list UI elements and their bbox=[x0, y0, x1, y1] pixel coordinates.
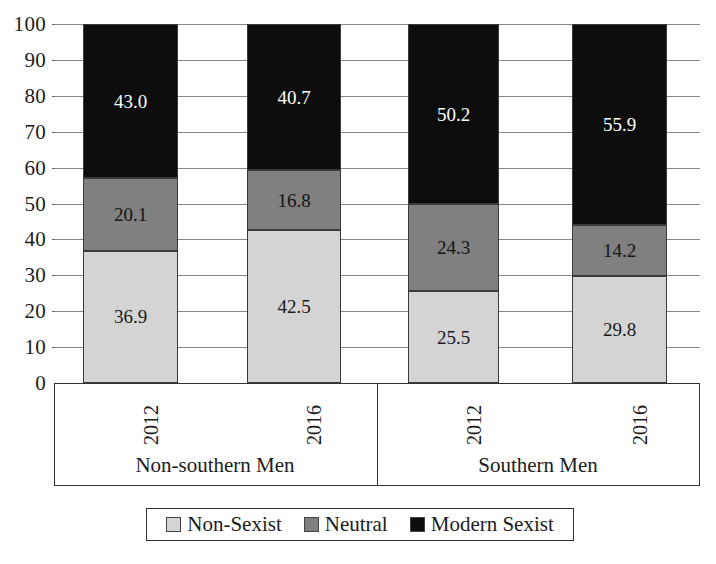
x-axis-year-label: 2016 bbox=[630, 405, 650, 445]
stacked-bar-chart: 1009080706050403020100 36.920.143.042.51… bbox=[0, 0, 716, 564]
bar-segment-value-label: 25.5 bbox=[437, 328, 470, 347]
bar-segment-value-label: 24.3 bbox=[437, 238, 470, 257]
stacked-bar: 36.920.143.0 bbox=[83, 24, 178, 383]
bar-segment: 36.9 bbox=[83, 251, 178, 383]
bar-segment: 24.3 bbox=[408, 204, 499, 291]
chart-legend: Non-SexistNeutralModern Sexist bbox=[146, 508, 574, 541]
bar-segment-value-label: 50.2 bbox=[437, 105, 470, 124]
x-axis-group-label: Southern Men bbox=[378, 455, 698, 476]
y-axis-tick-label: 20 bbox=[0, 301, 46, 322]
bar-segment: 40.7 bbox=[247, 24, 341, 170]
y-axis-tick-label: 60 bbox=[0, 158, 46, 179]
bar-segment-value-label: 14.2 bbox=[603, 241, 636, 260]
legend-label: Modern Sexist bbox=[431, 514, 554, 535]
stacked-bar: 42.516.840.7 bbox=[247, 24, 341, 383]
y-axis-tick-label: 40 bbox=[0, 229, 46, 250]
bar-segment: 25.5 bbox=[408, 291, 499, 383]
y-axis-tick-label: 10 bbox=[0, 337, 46, 358]
y-axis-tick-label: 70 bbox=[0, 122, 46, 143]
legend-label: Non-Sexist bbox=[187, 514, 282, 535]
bar-segment-value-label: 55.9 bbox=[603, 115, 636, 134]
y-axis-tick-label: 80 bbox=[0, 86, 46, 107]
legend-swatch-icon bbox=[166, 517, 181, 532]
y-axis-tick-label: 50 bbox=[0, 194, 46, 215]
x-axis-year-label: 2016 bbox=[304, 405, 324, 445]
bar-segment-value-label: 43.0 bbox=[114, 92, 147, 111]
legend-label: Neutral bbox=[325, 514, 388, 535]
bar-segment-value-label: 29.8 bbox=[603, 320, 636, 339]
bar-segment: 20.1 bbox=[83, 178, 178, 250]
legend-swatch-icon bbox=[304, 517, 319, 532]
bar-segment-value-label: 36.9 bbox=[114, 307, 147, 326]
bar-segment-value-label: 20.1 bbox=[114, 205, 147, 224]
bar-segment: 29.8 bbox=[572, 276, 667, 383]
bar-segment-value-label: 42.5 bbox=[277, 297, 310, 316]
bar-segment-value-label: 40.7 bbox=[277, 88, 310, 107]
y-axis-tick-label: 0 bbox=[0, 373, 46, 394]
bar-segment: 14.2 bbox=[572, 225, 667, 276]
x-axis-group-label: Non-southern Men bbox=[55, 455, 375, 476]
bar-segment-value-label: 16.8 bbox=[277, 191, 310, 210]
legend-entry[interactable]: Modern Sexist bbox=[410, 514, 554, 535]
legend-entry[interactable]: Neutral bbox=[304, 514, 388, 535]
bar-segment: 55.9 bbox=[572, 24, 667, 225]
legend-entry[interactable]: Non-Sexist bbox=[166, 514, 282, 535]
y-axis-tick-label: 30 bbox=[0, 265, 46, 286]
bar-segment: 16.8 bbox=[247, 170, 341, 230]
y-axis-tick-label: 100 bbox=[0, 14, 46, 35]
x-axis-year-label: 2012 bbox=[464, 405, 484, 445]
stacked-bar: 29.814.255.9 bbox=[572, 24, 667, 383]
y-axis-tick-label: 90 bbox=[0, 50, 46, 71]
legend-swatch-icon bbox=[410, 517, 425, 532]
bar-segment: 50.2 bbox=[408, 24, 499, 204]
bar-segment: 42.5 bbox=[247, 230, 341, 383]
bar-segment: 43.0 bbox=[83, 24, 178, 178]
x-axis-year-label: 2012 bbox=[141, 405, 161, 445]
stacked-bar: 25.524.350.2 bbox=[408, 24, 499, 383]
